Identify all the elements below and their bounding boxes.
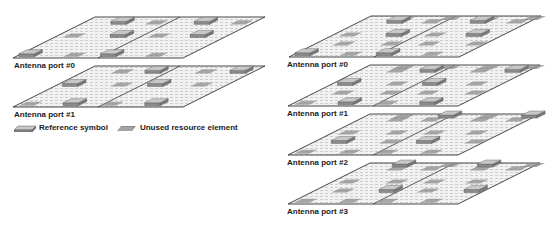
reference-symbol-icon bbox=[14, 124, 36, 132]
antenna-port-diagram bbox=[0, 0, 549, 227]
planes-layer bbox=[13, 16, 546, 204]
resource-grid-right-port-0 bbox=[289, 16, 546, 57]
antenna-port-label: Antenna port #0 bbox=[14, 61, 75, 70]
legend-unused-resource-element: Unused resource element bbox=[140, 123, 238, 132]
antenna-port-label: Antenna port #2 bbox=[287, 158, 348, 167]
legend-reference-symbol: Reference symbol bbox=[39, 123, 108, 132]
legend: Reference symbol Unused resource element bbox=[14, 123, 238, 132]
antenna-port-label: Antenna port #0 bbox=[287, 60, 348, 69]
resource-grid-left-port-1 bbox=[13, 66, 265, 107]
antenna-port-label: Antenna port #1 bbox=[287, 109, 348, 118]
resource-grid-left-port-0 bbox=[13, 17, 265, 58]
reference-symbol bbox=[522, 111, 546, 118]
unused-resource-element-icon bbox=[115, 124, 137, 132]
resource-grid-right-port-1 bbox=[288, 65, 545, 106]
antenna-port-label: Antenna port #1 bbox=[14, 110, 75, 119]
antenna-port-label: Antenna port #3 bbox=[287, 207, 348, 216]
